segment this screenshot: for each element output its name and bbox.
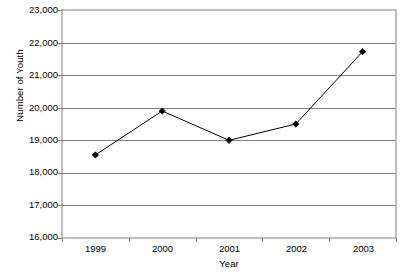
line-chart: Number of Youth 23,000 22,000 21,000 20,… <box>0 0 405 276</box>
plot-area <box>0 0 405 276</box>
plot-background <box>62 10 396 238</box>
y-axis-ticks <box>58 11 62 239</box>
x-axis-ticks <box>63 238 397 242</box>
